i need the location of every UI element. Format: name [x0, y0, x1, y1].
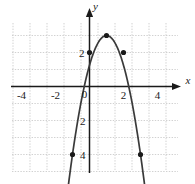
data-point [138, 152, 143, 157]
y-tick-label-neg2: 2 [80, 115, 86, 127]
y-axis-label: y [92, 0, 98, 12]
x-axis-label: x [185, 74, 191, 86]
chart-background [0, 0, 195, 184]
data-point [104, 33, 109, 38]
data-point [70, 152, 75, 157]
data-point [121, 50, 126, 55]
x-tick-label-0: 0 [82, 88, 88, 100]
x-tick-label-2: 2 [121, 89, 127, 101]
x-tick-label--2: -2 [51, 89, 60, 101]
x-tick-label--4: -4 [17, 89, 27, 101]
coordinate-plane-chart: -4-2024224 x y [0, 0, 195, 184]
y-tick-label-neg4: 4 [80, 149, 86, 161]
graph-figure: -4-2024224 x y [0, 0, 195, 184]
data-point [87, 50, 92, 55]
y-tick-label-2: 2 [79, 47, 85, 59]
x-tick-label-4: 4 [155, 89, 161, 101]
